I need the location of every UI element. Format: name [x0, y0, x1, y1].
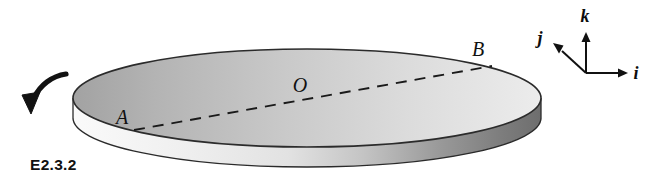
axis-j-arrow [553, 43, 586, 73]
coordinate-triad: i j k [534, 6, 638, 83]
axis-i-arrow [586, 69, 628, 78]
axis-label-j: j [534, 28, 543, 48]
axis-label-i: i [633, 63, 638, 83]
figure-container: A O B i j k [0, 0, 661, 182]
disk-figure-svg: A O B i j k [0, 0, 661, 182]
figure-id-label: E2.3.2 [30, 156, 77, 173]
point-label-A: A [114, 106, 129, 128]
disk-top-face [73, 49, 541, 147]
rotation-arrow [22, 74, 66, 114]
point-label-O: O [293, 74, 307, 96]
axis-k-arrow [582, 32, 591, 73]
point-label-B: B [472, 38, 484, 60]
axis-label-k: k [581, 6, 590, 26]
